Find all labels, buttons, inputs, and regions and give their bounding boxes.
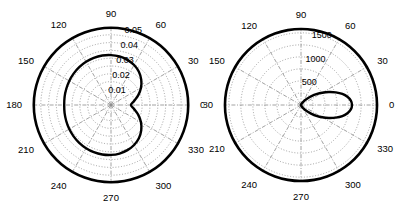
radial-tick-label-500: 500 <box>302 77 317 87</box>
angular-tick-label-60: 60 <box>156 19 167 30</box>
angular-tick-label-120: 120 <box>51 19 67 30</box>
radial-tick-label-0.02: 0.02 <box>112 70 130 80</box>
angular-tick-label-210: 210 <box>209 143 225 154</box>
angular-tick-label-180: 180 <box>204 99 213 110</box>
radial-tick-label-1500: 1500 <box>312 30 332 40</box>
angular-tick-label-330: 330 <box>188 144 204 155</box>
angular-tick-label-300: 300 <box>156 180 172 191</box>
polar-series-right <box>225 29 377 181</box>
angular-tick-label-120: 120 <box>241 20 257 31</box>
radial-tick-label-0.04: 0.04 <box>120 40 138 50</box>
angular-tick-label-90: 90 <box>296 9 307 20</box>
angular-tick-label-240: 240 <box>51 180 67 191</box>
radial-tick-label-0.05: 0.05 <box>124 25 142 35</box>
angular-tick-label-30: 30 <box>377 55 388 66</box>
angular-tick-label-210: 210 <box>18 144 34 155</box>
angular-tick-label-180: 180 <box>6 99 22 110</box>
angular-tick-label-0: 0 <box>389 99 394 110</box>
angular-tick-label-330: 330 <box>377 143 393 154</box>
angular-tick-label-270: 270 <box>103 192 119 203</box>
angular-tick-label-150: 150 <box>18 55 34 66</box>
polar-svg-right: 0306090120150180210240270300330500100015… <box>204 0 408 209</box>
radial-tick-label-0.01: 0.01 <box>108 85 126 95</box>
radial-tick-label-0.03: 0.03 <box>116 55 134 65</box>
angular-tick-label-30: 30 <box>188 55 199 66</box>
angular-tick-label-60: 60 <box>345 20 356 31</box>
angular-tick-label-90: 90 <box>106 8 117 19</box>
angular-tick-label-270: 270 <box>293 191 309 202</box>
polar-plot-left: 03060901201501802102402703003300.010.020… <box>0 0 204 209</box>
figure-canvas: 03060901201501802102402703003300.010.020… <box>0 0 408 209</box>
angular-tick-label-240: 240 <box>241 179 257 190</box>
polar-plot-right: 0306090120150180210240270300330500100015… <box>204 0 408 209</box>
radial-tick-label-1000: 1000 <box>305 54 325 64</box>
angular-tick-label-150: 150 <box>209 55 225 66</box>
angular-tick-label-300: 300 <box>345 179 361 190</box>
polar-svg-left: 03060901201501802102402703003300.010.020… <box>0 0 204 209</box>
